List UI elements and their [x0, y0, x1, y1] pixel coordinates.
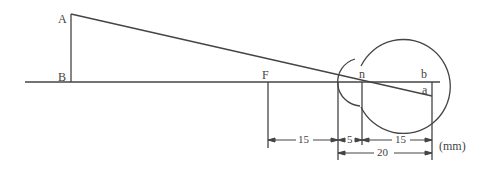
label-b-lower: b — [421, 68, 427, 80]
label-n: n — [359, 68, 365, 80]
label-a-upper: A — [58, 13, 67, 25]
dim-cornea-to-nodal: 5 — [346, 134, 354, 145]
diagram-lines — [0, 0, 482, 173]
ray-a-n-a — [71, 14, 432, 96]
dim-cornea-to-retina: 20 — [376, 147, 389, 158]
dim-nodal-to-retina: 15 — [394, 134, 407, 145]
eye-optics-diagram: A B F n b a 15 5 15 20 (mm) — [0, 0, 482, 173]
label-a-lower: a — [422, 84, 427, 96]
dim-focal-to-cornea: 15 — [297, 134, 310, 145]
label-b-upper: B — [58, 71, 66, 83]
eyeball-outline — [361, 40, 450, 134]
label-f: F — [262, 69, 269, 81]
dim-unit: (mm) — [438, 140, 467, 152]
